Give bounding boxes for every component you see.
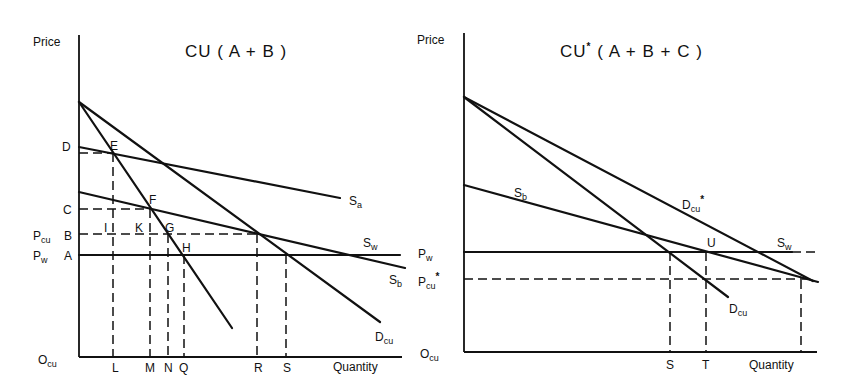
- point-label-dcu: Dcu: [375, 330, 393, 346]
- point-label-g: G: [165, 221, 174, 235]
- point-label-q: Q: [179, 361, 188, 375]
- curve-dcu: [464, 97, 728, 297]
- right-panel-cu-star-a-b-c: CU* ( A + B + C )PriceQuantityOcuPwPcu*S…: [417, 33, 818, 372]
- point-label-pw: Pw: [33, 249, 48, 265]
- point-label-l: L: [112, 361, 119, 375]
- origin-label: Ocu: [420, 347, 439, 363]
- point-label-dcu: Dcu: [729, 302, 747, 318]
- point-label-i: I: [104, 221, 107, 235]
- point-label-s: S: [283, 361, 291, 375]
- panel-title: CU* ( A + B + C ): [560, 41, 703, 61]
- point-label-k: K: [135, 221, 143, 235]
- point-label-sb: Sb: [389, 273, 402, 289]
- origin-label: Ocu: [38, 353, 57, 369]
- point-label-h: H: [182, 241, 191, 255]
- point-label-f: F: [149, 193, 156, 207]
- left-panel-cu-a-b: CU ( A + B )PriceQuantityOcuDCPcuBPwAEFI…: [33, 35, 405, 375]
- point-label-s: S: [666, 358, 674, 372]
- curve-dcu: [79, 102, 380, 322]
- point-label-sw: Sw: [777, 236, 792, 252]
- point-label-d: D: [62, 140, 71, 154]
- point-label-r: R: [254, 361, 263, 375]
- point-label-pw: Pw: [418, 247, 433, 263]
- point-label-pcu: Pcu: [33, 229, 51, 245]
- y-axis-label: Price: [417, 33, 445, 47]
- diagram-figure: CU ( A + B )PriceQuantityOcuDCPcuBPwAEFI…: [0, 0, 859, 391]
- point-label-pcu-star: Pcu*: [418, 271, 440, 291]
- point-label-b: B: [64, 229, 72, 243]
- curve-sa: [79, 147, 340, 198]
- point-label-sw: Sw: [363, 236, 378, 252]
- point-label-n: N: [164, 361, 173, 375]
- x-axis-label: Quantity: [749, 358, 794, 372]
- point-label-dcu-star: Dcu*: [682, 194, 704, 214]
- y-axis-label: Price: [33, 35, 61, 49]
- point-label-a: A: [64, 249, 72, 263]
- point-label-sa: Sa: [349, 194, 362, 210]
- point-label-sb: Sb: [514, 186, 527, 202]
- panel-title: CU ( A + B ): [185, 42, 287, 61]
- curve-demand-steep: [79, 102, 232, 328]
- diagram-canvas: CU ( A + B )PriceQuantityOcuDCPcuBPwAEFI…: [0, 0, 859, 391]
- x-axis-label: Quantity: [333, 360, 378, 374]
- point-label-u: U: [707, 236, 716, 250]
- point-label-t: T: [702, 358, 710, 372]
- point-label-c: C: [63, 203, 72, 217]
- point-label-m: M: [145, 361, 155, 375]
- point-label-e: E: [110, 139, 118, 153]
